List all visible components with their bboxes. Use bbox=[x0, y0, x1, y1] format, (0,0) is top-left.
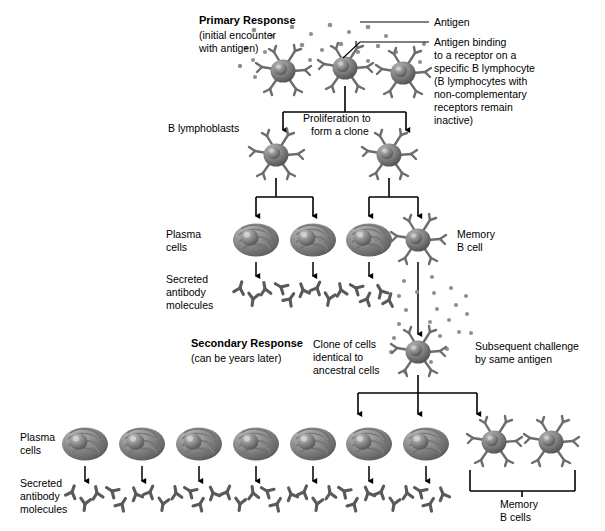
plasma-cell-p2 bbox=[290, 224, 336, 257]
subsequent-challenge-label-2: by same antigen bbox=[475, 353, 552, 366]
secreted-antibody-label2-3: molecules bbox=[20, 503, 67, 516]
antigen-binding-label-5: non-complementary bbox=[434, 88, 527, 101]
memory-b-cells-bracket bbox=[470, 470, 575, 497]
clone-of-cells-label-3: ancestral cells bbox=[313, 364, 380, 377]
memory-b-cell-primary bbox=[391, 214, 446, 264]
secreted-antibody-label-2: antibody bbox=[166, 286, 206, 299]
arrow-secretion-secondary bbox=[85, 466, 426, 481]
secondary-response-heading: Secondary Response bbox=[191, 337, 303, 350]
memory-b-cells-label-2: B cells bbox=[500, 511, 531, 524]
secreted-antibody-label2-1: Secreted bbox=[20, 477, 62, 490]
plasma-cell-s4 bbox=[233, 428, 279, 461]
antigen-label: Antigen bbox=[434, 16, 470, 29]
memory-b-cell-s2 bbox=[524, 416, 579, 466]
plasma-cell-s3 bbox=[176, 428, 222, 461]
secreted-antibody-label2-2: antibody bbox=[20, 490, 60, 503]
b-lymphoblasts-label: B lymphoblasts bbox=[168, 122, 239, 135]
plasma-cell-s6 bbox=[346, 428, 392, 461]
clone-of-cells-label-2: identical to bbox=[313, 351, 363, 364]
proliferation-label-2: form a clone bbox=[311, 125, 369, 138]
arrow-differentiation-left bbox=[256, 178, 313, 216]
antigen-binding-label-2: to a receptor on a bbox=[434, 49, 516, 62]
b-lymphoblast-1 bbox=[249, 129, 304, 179]
b-lymphocyte-3 bbox=[376, 47, 431, 97]
antigen-binding-label-4: (B lymphocytes with bbox=[434, 75, 527, 88]
plasma-cells-label2-1: Plasma bbox=[20, 431, 55, 444]
arrow-secretion-primary bbox=[256, 262, 369, 276]
plasma-cell-s1 bbox=[62, 428, 108, 461]
secreted-antibody-label-1: Secreted bbox=[166, 273, 208, 286]
antigen-binding-label-1: Antigen binding bbox=[434, 36, 506, 49]
secreted-antibody-label-3: molecules bbox=[166, 299, 213, 312]
plasma-cell-s2 bbox=[119, 428, 165, 461]
plasma-cells-label2-2: cells bbox=[20, 444, 41, 457]
antigen-binding-label-3: specific B lymphocyte bbox=[434, 62, 535, 75]
primary-response-sub-1: (initial encounter bbox=[199, 29, 276, 42]
b-lymphoblast-2 bbox=[362, 129, 417, 179]
subsequent-challenge-label-1: Subsequent challenge bbox=[475, 340, 579, 353]
antigen-binding-label-6: receptors remain bbox=[434, 101, 513, 114]
arrow-secondary-split bbox=[358, 375, 477, 414]
antibodies-secondary bbox=[66, 483, 450, 511]
diagram-canvas: Primary Response (initial encounter with… bbox=[0, 0, 605, 531]
plasma-cell-s7 bbox=[403, 428, 449, 461]
memory-b-cells-label-1: Memory bbox=[500, 498, 538, 511]
antigen-dots-secondary bbox=[389, 275, 473, 374]
antigen-binding-label-7: inactive) bbox=[434, 114, 473, 127]
plasma-cell-p1 bbox=[233, 224, 279, 257]
b-lymphocyte-2 bbox=[318, 42, 373, 92]
plasma-cells-label-1: Plasma bbox=[166, 228, 201, 241]
plasma-cell-s5 bbox=[290, 428, 336, 461]
antibodies-primary bbox=[234, 279, 396, 306]
secondary-response-sub: (can be years later) bbox=[191, 352, 281, 365]
plasma-cells-label-2: cells bbox=[166, 241, 187, 254]
plasma-cell-p3 bbox=[346, 224, 392, 257]
memory-b-cell-s1 bbox=[467, 416, 522, 466]
memory-b-cell-label-2: B cell bbox=[457, 241, 483, 254]
primary-response-heading: Primary Response bbox=[199, 14, 296, 27]
proliferation-label-1: Proliferation to bbox=[303, 112, 371, 125]
clone-of-cells-label-1: Clone of cells bbox=[313, 338, 376, 351]
arrow-differentiation-right bbox=[369, 178, 418, 216]
primary-response-sub-2: with antigen) bbox=[199, 42, 259, 55]
memory-b-cell-label-1: Memory bbox=[457, 228, 495, 241]
